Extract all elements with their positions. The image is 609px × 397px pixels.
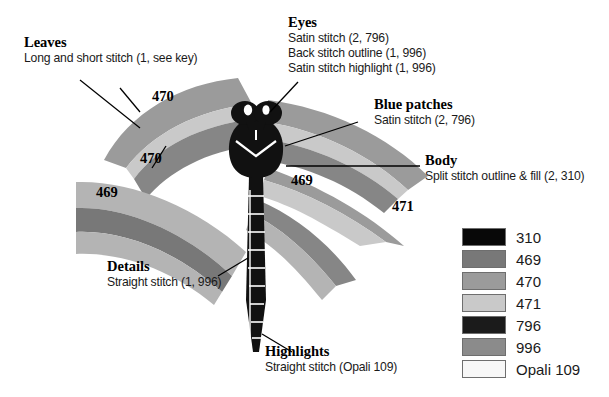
- eye-left-highlight: [244, 105, 252, 116]
- legend-swatch-310: [462, 228, 506, 246]
- callout-details: Details Straight stitch (1, 996): [107, 258, 221, 290]
- callout-blue-patches-title: Blue patches: [374, 96, 475, 113]
- legend-swatch-opali-109: [462, 360, 506, 378]
- legend-swatch-469: [462, 250, 506, 268]
- legend-label-996: 996: [516, 339, 541, 356]
- wing-label-469-left: 469: [96, 184, 118, 201]
- callout-blue-patches: Blue patches Satin stitch (2, 796): [374, 96, 475, 128]
- legend-label-469: 469: [516, 251, 541, 268]
- callout-body-title: Body: [425, 152, 584, 169]
- callout-details-line-1: Straight stitch (1, 996): [107, 275, 221, 290]
- wing-label-471: 471: [392, 198, 414, 215]
- legend-swatch-996: [462, 338, 506, 356]
- callout-eyes-line-1: Satin stitch (2, 796): [288, 31, 436, 46]
- wing-label-470-lower: 470: [140, 150, 162, 167]
- legend-swatch-796: [462, 316, 506, 334]
- eye-right-highlight: [262, 105, 269, 115]
- callout-body: Body Split stitch outline & fill (2, 310…: [425, 152, 584, 184]
- legend-row: 471: [462, 292, 580, 314]
- callout-leaves-title: Leaves: [24, 34, 197, 51]
- legend-swatch-471: [462, 294, 506, 312]
- legend-label-470: 470: [516, 273, 541, 290]
- legend-row: 470: [462, 270, 580, 292]
- head-base: [246, 122, 266, 130]
- callout-leaves: Leaves Long and short stitch (1, see key…: [24, 34, 197, 66]
- callout-details-title: Details: [107, 258, 221, 275]
- diagram-page: 470 470 469 469 471 Leaves Long and shor…: [0, 0, 609, 397]
- callout-eyes-line-3: Satin stitch highlight (1, 996): [288, 61, 436, 76]
- callout-leaves-line-1: Long and short stitch (1, see key): [24, 51, 197, 66]
- thread-colour-legend: 310 469 470 471 796 996 Opali 109: [462, 226, 580, 380]
- legend-row: 796: [462, 314, 580, 336]
- legend-label-opali-109: Opali 109: [516, 361, 580, 378]
- callout-highlights-title: Highlights: [265, 343, 397, 360]
- wing-label-470-upper: 470: [152, 88, 174, 105]
- legend-swatch-470: [462, 272, 506, 290]
- wing-label-469-right: 469: [291, 172, 313, 189]
- callout-eyes-line-2: Back stitch outline (1, 996): [288, 46, 436, 61]
- leader-leaves: [80, 80, 140, 128]
- leader-wing-470-upper: [120, 88, 140, 112]
- callout-highlights: Highlights Straight stitch (Opali 109): [265, 343, 397, 375]
- callout-highlights-line-1: Straight stitch (Opali 109): [265, 360, 397, 375]
- callout-body-line-1: Split stitch outline & fill (2, 310): [425, 169, 584, 184]
- callout-eyes: Eyes Satin stitch (2, 796) Back stitch o…: [288, 14, 436, 76]
- dragonfly-abdomen: [246, 176, 266, 352]
- legend-label-310: 310: [516, 229, 541, 246]
- legend-row: 469: [462, 248, 580, 270]
- legend-row: 310: [462, 226, 580, 248]
- callout-eyes-title: Eyes: [288, 14, 436, 31]
- legend-label-471: 471: [516, 295, 541, 312]
- legend-row: Opali 109: [462, 358, 580, 380]
- legend-label-796: 796: [516, 317, 541, 334]
- legend-row: 996: [462, 336, 580, 358]
- callout-blue-patches-line-1: Satin stitch (2, 796): [374, 113, 475, 128]
